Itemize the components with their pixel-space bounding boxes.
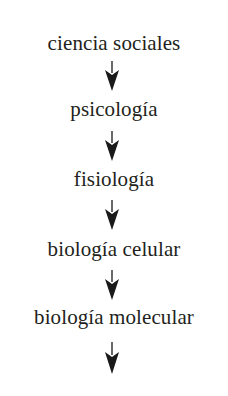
node-biologia-molecular: biología molecular [0, 305, 228, 329]
down-arrow-icon [103, 61, 121, 91]
down-arrow-icon [103, 342, 121, 374]
node-ciencia-sociales: ciencia sociales [0, 31, 228, 55]
node-psicologia: psicología [0, 97, 228, 121]
down-arrow-icon [103, 200, 121, 230]
node-fisiologia: fisiología [0, 167, 228, 191]
down-arrow-icon [103, 131, 121, 161]
down-arrow-icon [103, 270, 121, 300]
node-biologia-celular: biología celular [0, 237, 228, 261]
